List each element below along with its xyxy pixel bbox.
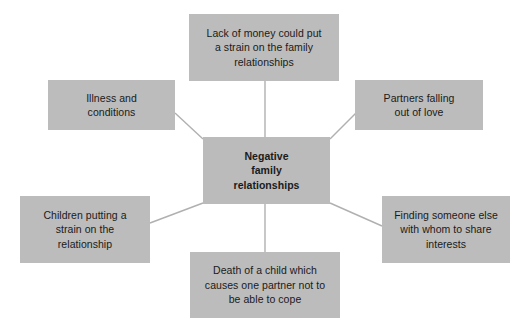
node-negative-family-relationships-label: Negative family relationships	[234, 149, 300, 192]
connector-center-to-left-lower	[150, 203, 203, 223]
node-illness-and-conditions-label: Illness and conditions	[86, 91, 137, 120]
spider-diagram: Lack of money could put a strain on the …	[0, 0, 530, 333]
connector-center-to-right-lower	[330, 203, 382, 226]
node-children-putting-a-strain-label: Children putting a strain on the relatio…	[43, 208, 126, 251]
connector-center-to-left-upper	[175, 113, 203, 139]
connector-center-to-right-upper	[330, 113, 356, 139]
node-illness-and-conditions[interactable]: Illness and conditions	[48, 80, 175, 130]
node-children-putting-a-strain[interactable]: Children putting a strain on the relatio…	[20, 196, 150, 263]
node-finding-someone-else-label: Finding someone else with whom to share …	[394, 208, 498, 251]
node-partners-falling-out-of-love[interactable]: Partners falling out of love	[355, 80, 483, 130]
node-finding-someone-else[interactable]: Finding someone else with whom to share …	[382, 196, 510, 263]
node-lack-of-money-label: Lack of money could put a strain on the …	[207, 26, 322, 69]
node-death-of-a-child[interactable]: Death of a child which causes one partne…	[190, 252, 340, 318]
node-death-of-a-child-label: Death of a child which causes one partne…	[205, 263, 325, 306]
node-lack-of-money[interactable]: Lack of money could put a strain on the …	[189, 14, 339, 81]
node-negative-family-relationships[interactable]: Negative family relationships	[203, 137, 330, 204]
node-partners-falling-out-of-love-label: Partners falling out of love	[384, 91, 455, 120]
